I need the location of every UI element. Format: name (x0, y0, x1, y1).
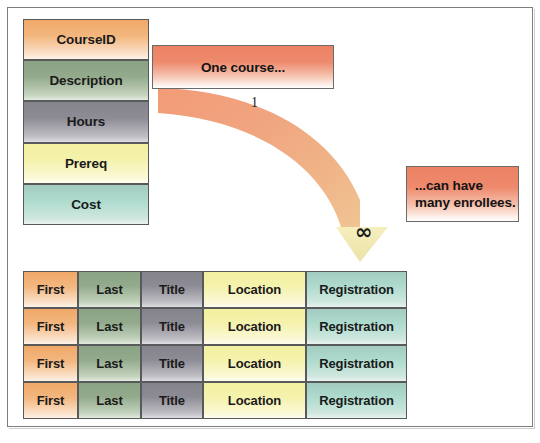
cardinality-many-text: ∞ (355, 220, 373, 244)
cardinality-one-text: 1 (251, 95, 258, 110)
table-cell-text: Title (159, 319, 185, 334)
entity-attribute-description: Description (23, 60, 149, 101)
table-cell-title: Title (141, 345, 203, 382)
table-cell-text: Title (159, 356, 185, 371)
callout-many-enrollees-line2: many enrollees. (415, 194, 518, 211)
table-cell-location: Location (203, 271, 306, 308)
table-row: First Last Title Location Registration (23, 308, 407, 345)
table-cell-text: Location (228, 282, 281, 297)
table-cell-location: Location (203, 382, 306, 419)
table-cell-title: Title (141, 308, 203, 345)
table-cell-text: Location (228, 319, 281, 334)
relationship-band (158, 88, 360, 238)
entity-attribute-label: Hours (67, 114, 106, 129)
table-cell-text: First (37, 282, 65, 297)
cardinality-many-infinity-icon: ∞ (355, 222, 373, 243)
table-cell-registration: Registration (306, 271, 407, 308)
table-cell-text: Location (228, 393, 281, 408)
table-cell-text: Registration (319, 282, 394, 297)
table-cell-registration: Registration (306, 382, 407, 419)
table-cell-last: Last (78, 271, 141, 308)
table-cell-first: First (23, 382, 78, 419)
table-cell-first: First (23, 345, 78, 382)
table-cell-text: Last (96, 282, 122, 297)
table-cell-text: Last (96, 319, 122, 334)
course-entity-box: CourseID Description Hours Prereq Cost (23, 19, 149, 225)
table-cell-first: First (23, 308, 78, 345)
callout-one-course-text: One course... (201, 60, 285, 75)
entity-attribute-label: Description (49, 73, 122, 88)
callout-many-enrollees-line1: ...can have (415, 177, 518, 194)
table-cell-text: Last (96, 393, 122, 408)
table-cell-text: First (37, 356, 65, 371)
entity-attribute-label: Cost (71, 197, 101, 212)
table-cell-title: Title (141, 382, 203, 419)
table-cell-text: First (37, 319, 65, 334)
table-cell-text: Registration (319, 319, 394, 334)
table-cell-registration: Registration (306, 308, 407, 345)
callout-many-enrollees: ...can have many enrollees. (406, 166, 519, 222)
table-cell-registration: Registration (306, 345, 407, 382)
table-cell-last: Last (78, 382, 141, 419)
table-cell-last: Last (78, 345, 141, 382)
diagram-frame: CourseID Description Hours Prereq Cost O… (7, 7, 533, 427)
table-cell-text: Location (228, 356, 281, 371)
cardinality-one-label: 1 (251, 95, 258, 111)
enrollees-table: First Last Title Location Registration F… (23, 271, 407, 419)
table-cell-first: First (23, 271, 78, 308)
cropped-caption-sliver (0, 0, 540, 5)
entity-attribute-hours: Hours (23, 101, 149, 142)
table-cell-last: Last (78, 308, 141, 345)
entity-attribute-cost: Cost (23, 184, 149, 225)
table-cell-title: Title (141, 271, 203, 308)
table-cell-text: Last (96, 356, 122, 371)
callout-one-course: One course... (152, 45, 334, 89)
table-cell-text: First (37, 393, 65, 408)
table-cell-text: Title (159, 393, 185, 408)
table-cell-location: Location (203, 308, 306, 345)
table-cell-text: Registration (319, 393, 394, 408)
entity-attribute-courseid: CourseID (23, 19, 149, 60)
entity-attribute-prereq: Prereq (23, 143, 149, 184)
table-row: First Last Title Location Registration (23, 345, 407, 382)
table-cell-text: Registration (319, 356, 394, 371)
entity-attribute-label: CourseID (56, 32, 115, 47)
table-row: First Last Title Location Registration (23, 271, 407, 308)
table-row: First Last Title Location Registration (23, 382, 407, 419)
table-cell-location: Location (203, 345, 306, 382)
table-cell-text: Title (159, 282, 185, 297)
entity-attribute-label: Prereq (65, 156, 107, 171)
